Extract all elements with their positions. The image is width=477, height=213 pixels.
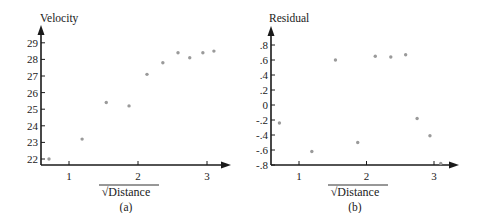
y-tick-label: -.2 [256,114,268,126]
velocity-scatter-plot: Velocity2223242526272829123√Distance(a) [0,0,240,213]
data-point [176,51,179,54]
y-axis-arrow-icon [38,25,45,35]
data-point [428,134,431,137]
panel-label: (a) [120,201,133,213]
y-tick-label: -.8 [256,159,268,171]
data-point [47,157,50,160]
y-tick-label: .8 [260,39,269,51]
x-tick-label: 2 [364,170,370,182]
y-tick-label: 29 [27,37,39,49]
data-point [278,121,281,124]
data-point [415,117,418,120]
y-tick-label: 0 [263,99,269,111]
y-axis-label: Residual [269,12,309,24]
data-point [334,58,337,61]
x-tick-label: 1 [296,170,302,182]
residual-scatter-plot: Residual.8.6.4.20-.2-.4-.6-.8123√Distanc… [240,0,477,213]
y-tick-label: -.4 [256,129,268,141]
x-tick-label: 3 [204,170,210,182]
y-tick-label: 25 [27,103,39,115]
chart-a: Velocity2223242526272829123√Distance(a) [0,0,240,213]
y-tick-label: 24 [27,120,39,132]
panel-label: (b) [348,201,362,213]
data-point [145,73,148,76]
data-point [80,137,83,140]
y-axis-arrow-icon [268,26,275,36]
y-tick-label: 28 [27,53,39,65]
data-point [356,141,359,144]
y-tick-label: 23 [27,136,39,148]
data-point [310,150,313,153]
y-axis-label: Velocity [40,12,79,25]
data-point [127,104,130,107]
data-point [188,56,191,59]
y-tick-label: .4 [260,69,269,81]
x-axis-label: √Distance [331,185,380,199]
x-axis-arrow-icon [221,162,231,169]
y-tick-label: -.6 [256,144,268,156]
y-tick-label: .6 [260,54,269,66]
x-axis-label: √Distance [102,185,151,199]
y-tick-label: .2 [260,84,268,96]
data-point [439,162,442,165]
data-point [389,55,392,58]
x-tick-label: 3 [431,170,437,182]
data-point [212,49,215,52]
chart-b: Residual.8.6.4.20-.2-.4-.6-.8123√Distanc… [240,0,477,213]
data-point [404,53,407,56]
data-point [161,61,164,64]
y-tick-label: 22 [27,153,38,165]
data-point [201,51,204,54]
data-point [105,101,108,104]
x-tick-label: 1 [66,170,72,182]
x-axis-arrow-icon [449,162,459,169]
y-tick-label: 27 [27,70,39,82]
y-tick-label: 26 [27,87,39,99]
data-point [374,55,377,58]
x-tick-label: 2 [135,170,141,182]
